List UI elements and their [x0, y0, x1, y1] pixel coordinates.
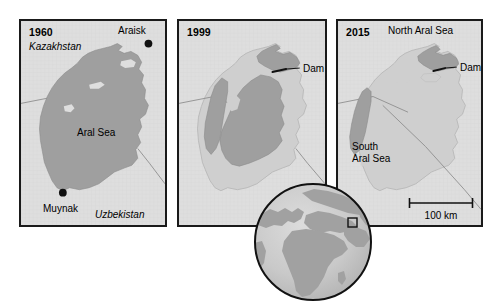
globe-graphic	[252, 181, 374, 302]
sea-label-north-aral-sea: North Aral Sea	[388, 25, 453, 36]
year-label-2015: 2015	[346, 26, 370, 38]
year-label-1960: 1960	[29, 26, 53, 38]
city-dot-araisk	[145, 40, 153, 48]
country-label-kazakhstan: Kazakhstan	[29, 41, 81, 52]
sea-label-south-line1: South	[352, 141, 378, 152]
sea-label-aral-sea: Aral Sea	[77, 127, 115, 138]
scale-bar-graphic	[408, 197, 474, 209]
city-dot-muynak	[59, 189, 67, 197]
feature-label-dam: Dam	[460, 62, 481, 73]
figure-root: 1960 Kazakhstan Araisk Aral Sea Muynak U…	[0, 0, 499, 302]
city-label-muynak: Muynak	[43, 203, 78, 214]
scale-bar-label: 100 km	[404, 210, 478, 221]
map-panel-1960: 1960 Kazakhstan Araisk Aral Sea Muynak U…	[19, 19, 167, 227]
country-label-uzbekistan: Uzbekistan	[95, 209, 144, 220]
city-label-araisk: Araisk	[118, 25, 146, 36]
scale-bar	[408, 197, 474, 209]
sea-label-south-line2: Aral Sea	[352, 153, 390, 164]
feature-label-dam: Dam	[303, 63, 324, 74]
year-label-1999: 1999	[187, 26, 211, 38]
globe-locator-inset	[252, 181, 374, 302]
